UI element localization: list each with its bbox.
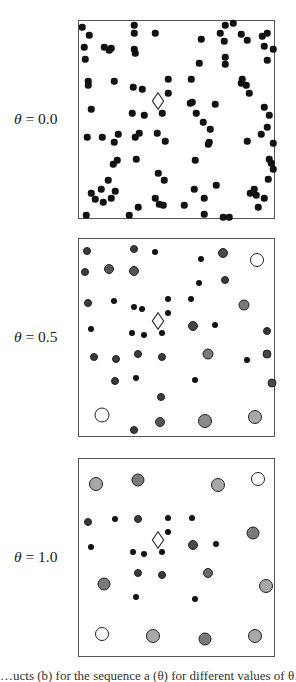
query-diamond-marker [152, 92, 165, 110]
data-point [238, 31, 245, 38]
data-point [158, 571, 166, 579]
data-point [222, 61, 229, 68]
data-point [159, 110, 166, 117]
data-point [98, 578, 111, 591]
data-point [134, 515, 142, 523]
data-point [165, 529, 171, 535]
data-point [199, 633, 212, 646]
data-point [258, 131, 265, 138]
data-point [244, 357, 250, 363]
data-point [83, 212, 90, 219]
data-point [95, 408, 110, 423]
data-point [111, 377, 119, 385]
data-point [244, 138, 251, 145]
data-point [82, 56, 89, 63]
data-point [255, 204, 262, 211]
data-point [201, 195, 208, 202]
data-point [270, 166, 277, 173]
data-point [88, 326, 94, 332]
data-point [226, 214, 233, 221]
data-point [115, 131, 122, 138]
theta-value: = 0.0 [22, 110, 58, 127]
data-point [155, 417, 165, 427]
query-diamond-marker [152, 531, 165, 549]
data-point [188, 296, 194, 302]
data-point [165, 90, 172, 97]
theta-symbol: θ [14, 110, 22, 127]
data-point [259, 579, 273, 593]
data-point [131, 22, 138, 29]
data-point [165, 296, 171, 302]
data-point [188, 76, 195, 83]
theta-label-0: θ = 0.0 [14, 110, 76, 128]
data-point [181, 202, 188, 209]
data-point [248, 410, 262, 424]
data-point [100, 199, 107, 206]
data-point [154, 130, 161, 137]
theta-symbol: θ [14, 328, 22, 345]
data-point [250, 253, 264, 267]
data-point [139, 306, 145, 312]
theta-symbol: θ [14, 548, 22, 565]
data-point [134, 350, 142, 358]
theta-value: = 0.5 [22, 328, 58, 345]
data-point [165, 515, 171, 521]
data-point [270, 140, 277, 147]
data-point [134, 569, 142, 577]
data-point [112, 188, 119, 195]
data-point [135, 204, 142, 211]
data-point [133, 594, 139, 600]
data-point [263, 350, 272, 359]
data-point [270, 46, 277, 53]
data-point [244, 37, 251, 44]
data-point [222, 54, 229, 61]
data-point [98, 186, 105, 193]
data-point [129, 330, 135, 336]
scatter-panel-1 [78, 238, 275, 437]
data-point [88, 106, 95, 113]
data-point [198, 414, 212, 428]
data-point [192, 596, 198, 602]
data-point [81, 44, 88, 51]
data-point [264, 124, 271, 131]
data-point [136, 130, 143, 137]
data-point [196, 280, 202, 286]
data-point [188, 540, 198, 550]
data-point [203, 568, 213, 578]
scatter-panel-2 [78, 458, 275, 657]
data-point [201, 211, 208, 218]
data-point [108, 195, 115, 202]
data-point [248, 629, 262, 643]
data-point [95, 627, 109, 641]
data-point [81, 268, 89, 276]
data-point [159, 330, 165, 336]
data-point [152, 249, 158, 255]
data-point [112, 516, 118, 522]
data-point [261, 43, 268, 50]
data-point [253, 192, 260, 199]
data-point [251, 472, 265, 486]
data-point [189, 515, 195, 521]
data-point [159, 549, 165, 555]
data-point [130, 245, 138, 253]
data-point [266, 112, 273, 119]
data-point [243, 82, 250, 89]
data-point [261, 104, 268, 111]
data-point [239, 300, 250, 311]
data-point [265, 176, 272, 183]
data-point [221, 38, 228, 45]
data-point [264, 30, 271, 37]
data-point [218, 248, 228, 258]
data-point [104, 264, 114, 274]
data-point [192, 157, 199, 164]
data-point [198, 36, 205, 43]
theta-value: = 1.0 [22, 548, 58, 565]
data-point [84, 518, 92, 526]
data-point [161, 177, 168, 184]
data-point [217, 30, 224, 37]
data-point [261, 195, 268, 202]
data-point [213, 182, 220, 189]
data-point [141, 112, 148, 119]
data-point [129, 266, 139, 276]
data-point [133, 156, 140, 163]
